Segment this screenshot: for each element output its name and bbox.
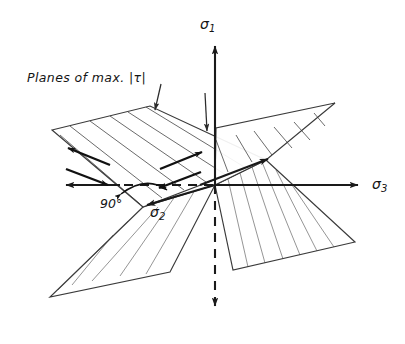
plane-lower-right — [215, 160, 355, 270]
sigma-3-label: σ3 — [372, 176, 387, 194]
stress-planes-figure: Planes of max. |τ| σ1 σ2 σ3 90° — [0, 0, 405, 344]
sigma-1-label: σ1 — [200, 16, 215, 34]
figure-canvas — [0, 0, 405, 344]
sigma-2-symbol: σ — [150, 204, 159, 220]
plane-lower-left — [50, 185, 215, 297]
angle-90-label: 90° — [100, 196, 122, 211]
sigma-1-subscript: 1 — [209, 23, 215, 34]
leader-arrow-outer — [155, 84, 161, 110]
sigma-1-symbol: σ — [200, 16, 209, 32]
sigma-3-subscript: 3 — [381, 183, 387, 194]
sigma-2-label: σ2 — [150, 204, 165, 222]
planes-annotation-label: Planes of max. |τ| — [27, 70, 146, 85]
sigma-3-symbol: σ — [372, 176, 381, 192]
sigma-2-subscript: 2 — [159, 211, 165, 222]
leader-arrow-inner — [205, 93, 207, 131]
